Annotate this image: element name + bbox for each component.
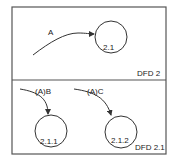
bottom-panel: (A)B 2.1.1 (A)C 2.1.2 DFD 2.1 (20, 87, 165, 152)
process-label-2-1-1: 2.1.1 (40, 137, 58, 146)
flow-label-ab: (A)B (35, 87, 51, 96)
flow-label-a: A (48, 28, 54, 37)
flow-label-ac: (A)C (87, 87, 104, 96)
process-label-2-1: 2.1 (103, 43, 115, 52)
process-label-2-1-2: 2.1.2 (111, 136, 129, 145)
top-panel: A 2.1 DFD 2 (33, 21, 161, 78)
dfd-diagram: A 2.1 DFD 2 (A)B 2.1.1 (A)C 2.1.2 DFD 2.… (0, 0, 178, 163)
flow-arrow-a (33, 33, 94, 55)
panel-title-dfd2: DFD 2 (137, 69, 161, 78)
panel-title-dfd2-1: DFD 2.1 (135, 143, 165, 152)
